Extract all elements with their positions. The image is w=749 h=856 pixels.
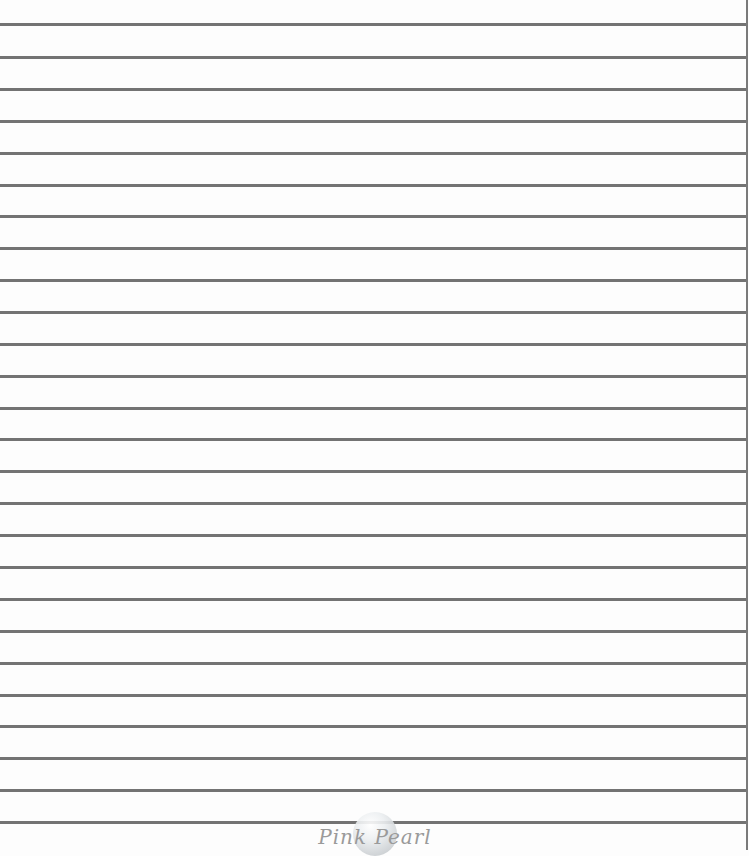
ruled-line [0, 247, 747, 250]
ruled-line [0, 502, 747, 505]
ruled-line [0, 375, 747, 378]
ruled-line [0, 725, 747, 728]
ruled-line [0, 598, 747, 601]
ruled-line [0, 407, 747, 410]
ruled-line [0, 88, 747, 91]
brand-logo: Pink Pearl [300, 808, 450, 850]
right-margin-line [746, 0, 748, 850]
ruled-line [0, 662, 747, 665]
brand-name: Pink Pearl [300, 825, 450, 849]
ruled-line [0, 152, 747, 155]
ruled-line [0, 215, 747, 218]
ruled-line [0, 279, 747, 282]
ruled-line [0, 694, 747, 697]
ruled-line [0, 120, 747, 123]
ruled-line [0, 438, 747, 441]
ruled-line [0, 23, 747, 26]
ruled-line [0, 534, 747, 537]
ruled-line [0, 470, 747, 473]
ruled-line [0, 566, 747, 569]
ruled-line [0, 757, 747, 760]
ruled-line [0, 789, 747, 792]
ruled-line [0, 184, 747, 187]
ruled-line [0, 343, 747, 346]
ruled-line [0, 630, 747, 633]
ruled-line [0, 56, 747, 59]
ruled-line [0, 311, 747, 314]
